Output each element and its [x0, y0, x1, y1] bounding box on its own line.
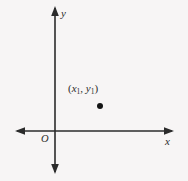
- x-axis-left-arrowhead-icon: [15, 127, 25, 135]
- y-axis-down-arrowhead-icon: [51, 164, 59, 174]
- coordinate-plane-figure: y x O (x1, y1): [0, 0, 188, 181]
- x-axis-right-arrowhead-icon: [164, 127, 174, 135]
- point-label-close-paren: ): [94, 82, 98, 94]
- plotted-point-dot: [97, 103, 103, 109]
- point-label-y-variable: y: [86, 82, 91, 94]
- point-coordinate-label: (x1, y1): [68, 83, 98, 94]
- point-label-x-subscript: 1: [77, 87, 81, 96]
- point-label-x-variable: x: [72, 82, 77, 94]
- y-axis-label: y: [61, 8, 66, 19]
- x-axis-label: x: [165, 136, 170, 147]
- y-axis-up-arrowhead-icon: [51, 6, 59, 16]
- origin-label: O: [41, 134, 49, 145]
- point-label-y-subscript: 1: [91, 87, 95, 96]
